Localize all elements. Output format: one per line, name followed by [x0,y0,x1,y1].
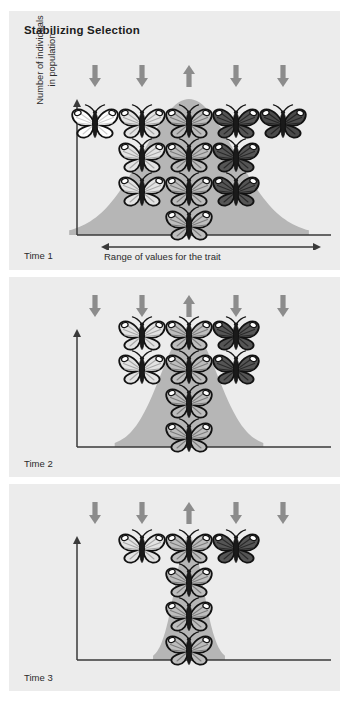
panel-time-1: Stabilizing Selection Number of individu… [9,11,340,270]
butterfly-dark [213,105,259,138]
time-label-1: Time 1 [24,250,53,261]
y-axis-label: Number of individuals in population [35,1,58,119]
plot-area-time-2 [55,295,335,461]
x-axis-label: Range of values for the trait [104,251,221,262]
panel-time-2: Time 2 [9,277,340,477]
butterfly-light [119,139,165,172]
butterfly-dark [213,530,259,563]
plot-area-time-1 [55,65,335,250]
butterfly-white [72,105,118,138]
chart-svg-1 [55,65,335,250]
butterfly-darkest [260,105,306,138]
butterfly-light [119,530,165,563]
selection-arrows [89,295,289,317]
plot-area-time-3 [55,502,335,674]
butterfly-dark [213,317,259,350]
time-label-3: Time 3 [24,672,53,683]
butterfly-light [119,351,165,384]
butterfly-dark [213,139,259,172]
butterfly-dark [213,351,259,384]
butterfly-light [119,105,165,138]
panel-time-3: Time 3 [9,484,340,691]
butterfly-medium-light [166,317,212,350]
selection-arrows [89,502,289,524]
chart-svg-2 [55,295,335,461]
time-label-2: Time 2 [24,458,53,469]
selection-arrows [89,65,289,87]
chart-svg-3 [55,502,335,674]
butterfly-light [119,317,165,350]
butterfly-medium-light [166,530,212,563]
figure-root: Stabilizing Selection Number of individu… [0,0,349,702]
trait-range-arrow [101,243,321,250]
